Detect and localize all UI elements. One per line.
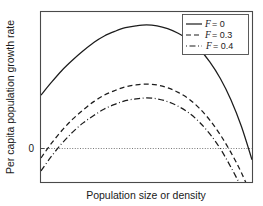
y-tick-label-zero: 0 (28, 143, 34, 154)
legend-label-f-0-4-var: F (205, 41, 212, 51)
growth-rate-chart: 0 Population size or density Per capita … (0, 0, 263, 206)
y-axis-title: Per capita population growth rate (4, 20, 16, 174)
legend-label-f-0-value: = 0 (212, 19, 225, 29)
legend-label-f-0-3-value: = 0.3 (212, 30, 232, 40)
legend: F = 0 F = 0.3 F = 0.4 (183, 15, 249, 55)
legend-label-f-0-var: F (204, 19, 211, 29)
chart-figure: 0 Population size or density Per capita … (0, 0, 263, 206)
legend-label-f-0-4-value: = 0.4 (213, 41, 233, 51)
legend-label-f-0-3-var: F (204, 30, 211, 40)
x-axis-title: Population size or density (86, 189, 206, 201)
